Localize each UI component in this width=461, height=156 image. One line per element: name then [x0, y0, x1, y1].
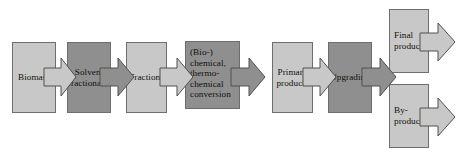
arrow-biomass-to-solvent	[44, 58, 76, 96]
arrow-conversion-to-primary	[231, 58, 265, 96]
arrow-by-products-output	[420, 98, 455, 136]
arrow-upgrading-to-products	[362, 58, 396, 96]
arrow-fractions-to-conversion	[160, 58, 193, 96]
process-flow-diagram: Biomass Solvent fractionation Fractions …	[0, 0, 461, 156]
arrow-primary-to-upgrading	[303, 58, 336, 96]
arrow-solvent-to-fractions	[100, 58, 134, 96]
arrow-final-products-output	[420, 23, 455, 61]
